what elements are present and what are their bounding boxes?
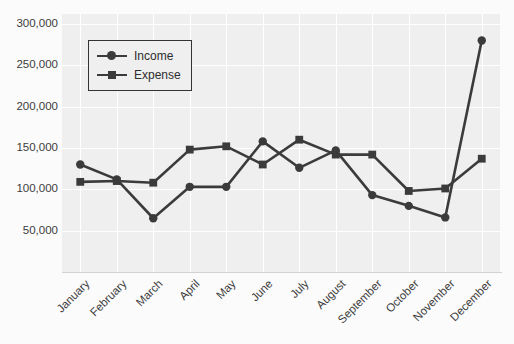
x-tick-label: March	[135, 278, 166, 309]
x-axis-tick-labels: JanuaryFebruaryMarchAprilMayJuneJulyAugu…	[0, 0, 514, 344]
x-tick-label: August	[314, 278, 347, 311]
x-tick-label: February	[88, 278, 129, 319]
legend-label-income: Income	[134, 50, 173, 62]
expense-marker-icon	[97, 68, 127, 82]
income-marker-icon	[97, 49, 127, 63]
legend-label-expense: Expense	[134, 69, 181, 81]
chart-page: 50,000100,000150,000200,000250,000300,00…	[0, 0, 514, 344]
legend-item-expense[interactable]: Expense	[97, 65, 181, 84]
legend: Income Expense	[88, 40, 192, 91]
x-tick-label: June	[249, 278, 275, 304]
x-tick-label: May	[215, 278, 239, 302]
x-tick-label: April	[177, 278, 201, 302]
x-tick-label: July	[289, 278, 312, 301]
legend-item-income[interactable]: Income	[97, 46, 181, 65]
